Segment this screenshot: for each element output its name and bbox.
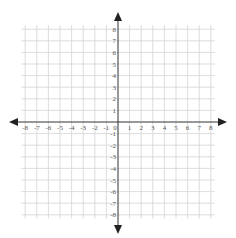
x-tick-label: -8	[22, 124, 28, 132]
coordinate-plane: -8-7-6-5-4-3-2-1012345678 87654321-1-2-3…	[0, 0, 236, 238]
y-tick-label: 3	[113, 84, 117, 92]
arrow-right-icon	[218, 118, 227, 126]
x-tick-label: -3	[80, 124, 86, 132]
y-tick-label: 5	[113, 61, 117, 69]
y-tick-label: 8	[113, 26, 117, 34]
x-tick-label: -1	[103, 124, 109, 132]
x-tick-label: 4	[163, 124, 167, 132]
x-tick-label: 1	[128, 124, 132, 132]
x-tick-label: 2	[139, 124, 143, 132]
x-tick-label: -7	[34, 124, 40, 132]
y-tick-label: -8	[110, 211, 116, 219]
y-tick-label: -4	[110, 165, 116, 173]
x-tick-label: 3	[151, 124, 155, 132]
y-tick-label: -3	[110, 153, 116, 161]
x-tick-label: 6	[186, 124, 190, 132]
arrow-up-icon	[114, 12, 122, 21]
y-tick-label: 4	[113, 72, 117, 80]
y-tick-label: -2	[110, 142, 116, 150]
x-tick-label: -2	[92, 124, 98, 132]
x-tick-label: 8	[209, 124, 213, 132]
y-tick-label: 2	[113, 95, 117, 103]
y-tick-label: -1	[110, 130, 116, 138]
y-tick-label: -6	[110, 188, 116, 196]
y-tick-label: 6	[113, 49, 117, 57]
x-tick-label: -6	[45, 124, 51, 132]
y-tick-label: 1	[113, 107, 117, 115]
x-tick-label: -5	[57, 124, 63, 132]
x-tick-label: 5	[174, 124, 178, 132]
y-tick-label: -7	[110, 200, 116, 208]
y-tick-label: 7	[113, 37, 117, 45]
x-tick-label: -4	[69, 124, 75, 132]
axes	[9, 12, 227, 234]
arrow-down-icon	[114, 225, 122, 234]
arrow-left-icon	[9, 118, 18, 126]
y-tick-label: -5	[110, 177, 116, 185]
x-tick-label: 7	[197, 124, 201, 132]
